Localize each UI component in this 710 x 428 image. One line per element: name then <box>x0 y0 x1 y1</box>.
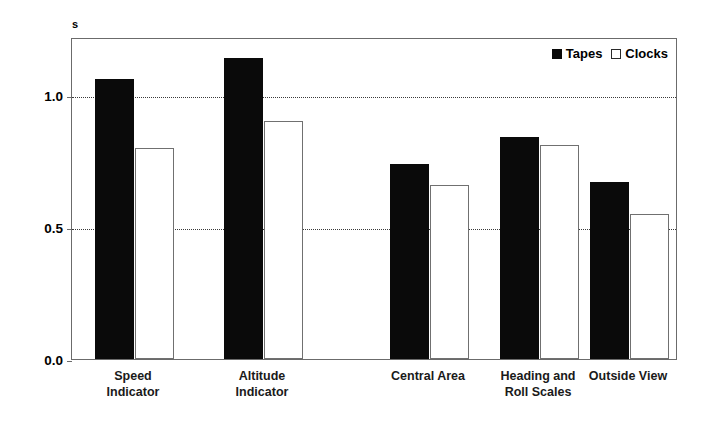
y-tick-mark-0.5 <box>67 229 72 230</box>
y-tick-label-0.5: 0.5 <box>44 222 63 236</box>
bar-clocks-1 <box>264 121 303 359</box>
legend-label-tapes: Tapes <box>566 47 603 61</box>
y-tick-mark-0.0 <box>67 361 72 362</box>
plot-area: 0.00.51.0 Tapes Clocks <box>71 38 677 360</box>
bar-tapes-4 <box>590 182 629 359</box>
legend-label-clocks: Clocks <box>625 47 668 61</box>
bar-clocks-3 <box>540 145 579 359</box>
y-axis-unit-label: s <box>72 18 78 30</box>
chart-legend: Tapes Clocks <box>552 47 668 61</box>
bar-chart: s 0.00.51.0 Tapes Clocks Speed Indicator… <box>0 0 710 428</box>
gridline-1.0 <box>72 97 676 98</box>
bar-clocks-2 <box>430 185 469 359</box>
bar-tapes-2 <box>390 164 429 359</box>
bar-clocks-4 <box>630 214 669 359</box>
legend-entry-clocks: Clocks <box>611 47 668 61</box>
bar-tapes-3 <box>500 137 539 359</box>
legend-swatch-clocks-icon <box>611 49 621 59</box>
legend-entry-tapes: Tapes <box>552 47 603 61</box>
x-axis-label-1: Altitude Indicator <box>192 368 332 400</box>
x-axis-label-0: Speed Indicator <box>63 368 203 400</box>
y-tick-label-1.0: 1.0 <box>44 90 63 104</box>
bar-tapes-1 <box>224 58 263 359</box>
y-tick-mark-1.0 <box>67 97 72 98</box>
bar-clocks-0 <box>135 148 174 359</box>
y-tick-label-0.0: 0.0 <box>44 354 63 368</box>
bar-tapes-0 <box>95 79 134 359</box>
legend-swatch-tapes-icon <box>552 49 562 59</box>
x-axis-label-4: Outside View <box>558 368 698 384</box>
